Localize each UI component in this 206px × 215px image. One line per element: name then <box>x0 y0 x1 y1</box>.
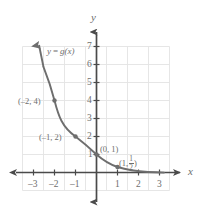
y-tick-label-4: 4 <box>87 96 92 106</box>
point-label-0-1: (0, 1) <box>100 145 118 154</box>
y-tick-label-7: 7 <box>87 42 92 52</box>
point-marker <box>94 152 98 156</box>
graph-figure: y x y=g(x) 7 6 5 4 3 2 1 –3 –2 –1 1 2 3 … <box>0 0 206 215</box>
point-label-suffix: ) <box>134 158 137 168</box>
x-axis-label: x <box>188 166 193 177</box>
x-tick-label-neg3: –3 <box>28 180 38 190</box>
point-label-neg1-2: (–1, 2) <box>39 133 62 142</box>
x-tick-label-1: 1 <box>115 180 120 190</box>
point-label-prefix: (1, <box>119 158 128 168</box>
x-tick-label-neg1: –1 <box>70 180 80 190</box>
x-tick-label-2: 2 <box>136 180 141 190</box>
plotted-points <box>52 98 119 169</box>
curve-upper-arrow <box>39 45 44 67</box>
y-tick-label-2: 2 <box>87 132 92 142</box>
y-tick-label-1: 1 <box>88 150 93 160</box>
fraction-one-half: 12 <box>129 155 134 171</box>
point-label-1-half: (1,12) <box>119 155 137 171</box>
x-tick-label-3: 3 <box>157 180 162 190</box>
y-tick-label-5: 5 <box>87 78 92 88</box>
equation-rhs: g(x) <box>60 46 75 56</box>
y-tick-label-3: 3 <box>87 114 92 124</box>
x-tick-label-neg2: –2 <box>49 180 59 190</box>
point-marker <box>73 134 77 138</box>
point-label-neg2-4: (–2, 4) <box>18 97 41 106</box>
point-marker <box>52 98 56 102</box>
y-tick-label-6: 6 <box>87 60 92 70</box>
fraction-denominator: 2 <box>129 164 134 172</box>
equation-lhs: y <box>47 46 51 56</box>
curve-equation-label: y=g(x) <box>47 47 75 56</box>
equation-equals: = <box>53 46 58 56</box>
y-axis-label: y <box>91 12 96 23</box>
